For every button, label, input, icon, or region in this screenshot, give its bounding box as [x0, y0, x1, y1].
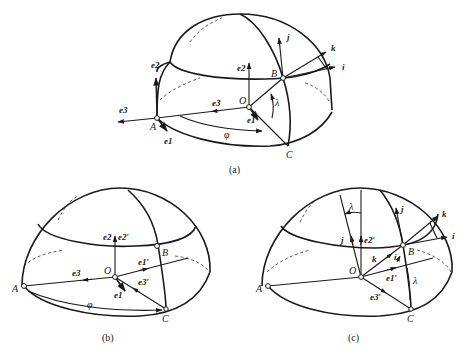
- point-O: [113, 275, 118, 280]
- label-B: B: [162, 247, 168, 258]
- label-C: C: [407, 313, 414, 324]
- meridian-left: [157, 62, 170, 118]
- label-e1p: e1′: [138, 257, 149, 267]
- label-B: B: [408, 246, 414, 257]
- label-i-B: i: [452, 231, 455, 241]
- label-e3: e3: [72, 268, 81, 278]
- meridian-BC: [380, 190, 411, 309]
- label-e2p: e2′: [118, 232, 129, 242]
- label-A: A: [149, 121, 157, 132]
- diagram-canvas: A O B C φ λ e3 e2 e1 e3 e2 e1 j k i (a): [0, 0, 468, 355]
- label-C: C: [286, 149, 293, 160]
- point-C: [409, 307, 413, 311]
- label-A: A: [255, 283, 263, 294]
- label-e3-O: e3: [212, 98, 221, 108]
- point-O: [359, 275, 364, 280]
- label-k-O: k: [372, 254, 377, 264]
- point-A: [22, 284, 27, 289]
- point-B: [401, 243, 406, 248]
- dome-outline: [170, 14, 332, 110]
- dome-outline: [22, 188, 210, 286]
- point-B: [155, 244, 160, 249]
- label-C: C: [162, 313, 169, 324]
- label-e2-A: e2: [151, 60, 160, 70]
- label-e3p: e3′: [138, 277, 149, 287]
- point-A: [155, 116, 160, 121]
- label-O: O: [349, 265, 356, 276]
- point-O: [247, 105, 252, 110]
- caption-a: (a): [229, 164, 240, 176]
- k-vector-O: [385, 254, 392, 260]
- point-B: [281, 76, 286, 81]
- e3-vector: [83, 279, 92, 280]
- caption-c: (c): [348, 332, 359, 344]
- e1p-vector: [140, 268, 148, 270]
- label-O: O: [239, 95, 246, 106]
- label-e2-O: e2: [237, 63, 246, 73]
- e1p-vector: [387, 268, 396, 270]
- label-j-O: j: [339, 235, 344, 245]
- e3p-vector: [133, 288, 140, 293]
- label-lambda: λ: [274, 97, 280, 108]
- label-k-B: k: [442, 209, 447, 219]
- label-O: O: [104, 265, 111, 276]
- e3-vector-O: [212, 111, 220, 112]
- meridian-BC: [128, 190, 166, 309]
- label-e1-O: e1: [247, 115, 256, 125]
- label-i-O: i: [394, 252, 397, 262]
- label-e1-A: e1: [164, 136, 173, 146]
- label-phi: φ: [224, 129, 230, 140]
- label-phi: φ: [87, 299, 93, 310]
- label-e3-A: e3: [119, 105, 128, 115]
- label-lambda-top: λ: [348, 201, 354, 212]
- caption-b: (b): [102, 332, 114, 344]
- parallel-circle: [38, 224, 196, 246]
- label-e2: e2: [103, 232, 112, 242]
- label-k-B: k: [331, 43, 336, 53]
- i-vector-B: [403, 237, 447, 245]
- label-e1: e1: [114, 290, 123, 300]
- label-B: B: [271, 68, 277, 79]
- label-e1p: e1′: [386, 273, 397, 283]
- label-j-B: j: [285, 32, 290, 42]
- point-A: [266, 284, 271, 289]
- i-vector-O: [397, 256, 400, 262]
- label-e3p: e3′: [370, 292, 381, 302]
- figure-c: A O B C λ λ j e2′ k i e1′ e3′ j k i (c): [255, 188, 455, 344]
- label-A: A: [11, 283, 19, 294]
- e2-vector-A: [156, 78, 157, 118]
- point-C: [164, 307, 168, 311]
- figure-a: A O B C φ λ e3 e2 e1 e3 e2 e1 j k i (a): [118, 14, 345, 176]
- label-lambda-side: λ: [412, 275, 418, 286]
- label-e2p-O: e2′: [364, 235, 375, 245]
- lambda-arc-top: [345, 212, 361, 214]
- label-i-B: i: [342, 62, 345, 72]
- lambda-arc: [271, 94, 273, 118]
- label-j-B: j: [399, 204, 404, 214]
- figure-b: A O B C φ e3 e2 e2′ e1′ e3′ e1 (b): [11, 188, 210, 344]
